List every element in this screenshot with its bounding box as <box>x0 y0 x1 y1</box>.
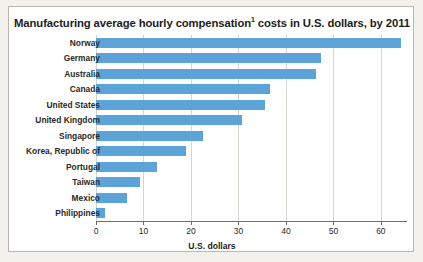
category-label: Singapore <box>0 131 100 141</box>
bar <box>96 131 203 141</box>
bar-row <box>96 128 407 144</box>
bar-row <box>96 175 407 191</box>
chart-title-suffix: costs in U.S. dollars, by 2011 <box>255 17 410 29</box>
x-tick-20 <box>191 222 192 225</box>
category-label: United States <box>0 100 100 110</box>
bar-row <box>96 190 407 206</box>
x-tick-label-10: 10 <box>139 226 148 236</box>
x-tick-label-20: 20 <box>186 226 195 236</box>
category-label: Philippines <box>0 208 100 218</box>
chart-frame: Manufacturing average hourly compensatio… <box>8 6 414 252</box>
category-label: Mexico <box>0 193 100 203</box>
x-tick-30 <box>238 222 239 225</box>
bar <box>96 84 270 94</box>
bar <box>96 177 140 187</box>
category-label: Taiwan <box>0 177 100 187</box>
chart-title: Manufacturing average hourly compensatio… <box>9 17 415 29</box>
bar-row <box>96 51 407 67</box>
bar <box>96 69 316 79</box>
bar-row <box>96 159 407 175</box>
bar-row <box>96 113 407 129</box>
category-label: Canada <box>0 84 100 94</box>
category-label: United Kingdom <box>0 115 100 125</box>
x-tick-0 <box>96 222 97 225</box>
x-tick-label-60: 60 <box>376 226 385 236</box>
bar-row <box>96 206 407 222</box>
bar-row <box>96 82 407 98</box>
x-tick-10 <box>143 222 144 225</box>
category-label: Portugal <box>0 162 100 172</box>
bar <box>96 193 127 203</box>
chart-figure: Manufacturing average hourly compensatio… <box>0 0 423 262</box>
chart-title-main: Manufacturing average hourly compensatio… <box>14 17 251 29</box>
bar <box>96 146 186 156</box>
x-tick-50 <box>333 222 334 225</box>
category-label: Australia <box>0 69 100 79</box>
bar-row <box>96 66 407 82</box>
x-tick-60 <box>381 222 382 225</box>
bar-row <box>96 35 407 51</box>
bar <box>96 100 265 110</box>
bar <box>96 53 321 63</box>
x-tick-label-30: 30 <box>234 226 243 236</box>
bar <box>96 115 242 125</box>
x-tick-label-0: 0 <box>94 226 99 236</box>
category-label: Korea, Republic of <box>0 146 100 156</box>
x-tick-40 <box>286 222 287 225</box>
bar <box>96 162 157 172</box>
category-label: Norway <box>0 38 100 48</box>
bar <box>96 38 401 48</box>
x-tick-label-40: 40 <box>281 226 290 236</box>
x-tick-label-50: 50 <box>329 226 338 236</box>
category-label: Germany <box>0 53 100 63</box>
x-axis-label: U.S. dollars <box>9 241 415 251</box>
bar-row <box>96 97 407 113</box>
bar-row <box>96 144 407 160</box>
